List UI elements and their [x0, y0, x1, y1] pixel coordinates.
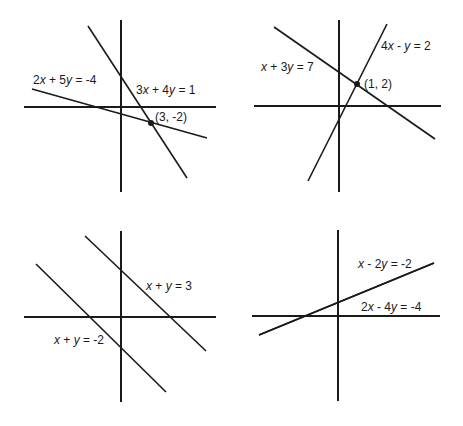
- equation-label: 2x - 4y = -4: [361, 300, 422, 314]
- equation-label: x - 2y = -2: [357, 257, 412, 271]
- equation-label: 4x - y = 2: [381, 39, 431, 53]
- equation-label: x + y = -2: [53, 333, 104, 347]
- diagram-canvas: 2x + 5y = -43x + 4y = 1(3, -2)x + 3y = 7…: [0, 0, 463, 426]
- equation-line-1: [88, 26, 187, 178]
- intersection-point: [148, 120, 154, 126]
- panel-bottom-left: x + y = 3x + y = -2: [24, 231, 216, 402]
- equation-line-2: [259, 263, 434, 335]
- equation-label: (1, 2): [364, 77, 392, 91]
- panel-top-right: x + 3y = 74x - y = 2(1, 2): [254, 20, 441, 192]
- panel-top-left: 2x + 5y = -43x + 4y = 1(3, -2): [24, 20, 216, 192]
- equation-line-2: [308, 24, 387, 181]
- intersection-point: [354, 81, 360, 87]
- equation-label: x + 3y = 7: [260, 60, 314, 74]
- equation-label: 2x + 5y = -4: [33, 73, 97, 87]
- panel-bottom-right: x - 2y = -22x - 4y = -4: [252, 230, 440, 401]
- equation-label: 3x + 4y = 1: [136, 83, 196, 97]
- equation-label: x + y = 3: [145, 279, 192, 293]
- equation-label: (3, -2): [155, 110, 187, 124]
